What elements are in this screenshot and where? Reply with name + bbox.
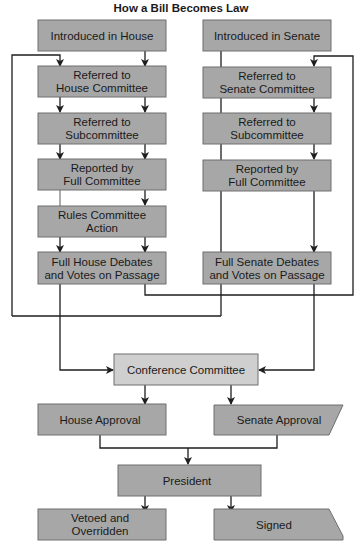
svg-text:Referred to: Referred to <box>238 70 296 82</box>
svg-text:Senate Approval: Senate Approval <box>237 414 321 426</box>
box-senate-reported[interactable]: Reported by Full Committee <box>203 160 331 191</box>
svg-text:Subcommittee: Subcommittee <box>230 129 304 141</box>
box-introduced-in-senate[interactable]: Introduced in Senate <box>203 20 331 51</box>
flowchart: Introduced in House Referred to House Co… <box>0 0 362 548</box>
svg-text:Action: Action <box>86 222 118 234</box>
house-column: Introduced in House Referred to House Co… <box>38 20 166 284</box>
box-house-committee[interactable]: Referred to House Committee <box>38 66 166 97</box>
senate-column: Introduced in Senate Referred to Senate … <box>203 20 331 284</box>
svg-text:Subcommittee: Subcommittee <box>65 129 139 141</box>
svg-text:Reported by: Reported by <box>71 162 134 174</box>
box-vetoed-overridden[interactable]: Vetoed and Overridden <box>38 509 166 540</box>
svg-text:House Approval: House Approval <box>59 414 140 426</box>
svg-text:Conference Committee: Conference Committee <box>127 364 245 376</box>
svg-text:Referred to: Referred to <box>73 69 131 81</box>
box-senate-approval[interactable]: Senate Approval <box>214 405 343 435</box>
box-house-approval[interactable]: House Approval <box>38 404 166 435</box>
svg-text:Full House Debates: Full House Debates <box>52 256 153 268</box>
svg-text:Full Committee: Full Committee <box>228 176 305 188</box>
svg-text:Signed: Signed <box>256 519 292 531</box>
svg-text:Vetoed and: Vetoed and <box>71 512 129 524</box>
svg-text:and Votes on Passage: and Votes on Passage <box>209 269 324 281</box>
svg-text:Full Committee: Full Committee <box>63 175 140 187</box>
arrow-house-to-conference <box>60 284 113 370</box>
svg-text:Senate Committee: Senate Committee <box>219 83 314 95</box>
svg-text:Full Senate Debates: Full Senate Debates <box>215 256 319 268</box>
box-senate-subcommittee[interactable]: Referred to Subcommittee <box>203 113 331 144</box>
box-conference-committee[interactable]: Conference Committee <box>114 354 258 385</box>
box-senate-floor[interactable]: Full Senate Debates and Votes on Passage <box>203 252 331 284</box>
svg-text:Introduced in House: Introduced in House <box>51 30 154 42</box>
line-approvals-join <box>100 435 277 448</box>
box-president[interactable]: President <box>118 465 261 496</box>
box-rules-committee[interactable]: Rules Committee Action <box>38 206 166 237</box>
svg-text:Rules Committee: Rules Committee <box>58 209 146 221</box>
svg-text:Referred to: Referred to <box>238 116 296 128</box>
box-house-subcommittee[interactable]: Referred to Subcommittee <box>38 113 166 144</box>
svg-text:and Votes on Passage: and Votes on Passage <box>44 269 159 281</box>
svg-text:Introduced in Senate: Introduced in Senate <box>214 30 320 42</box>
svg-text:President: President <box>163 475 212 487</box>
svg-text:House Committee: House Committee <box>56 82 148 94</box>
box-house-reported[interactable]: Reported by Full Committee <box>38 159 166 190</box>
svg-text:Referred to: Referred to <box>73 116 131 128</box>
svg-text:Overridden: Overridden <box>72 525 129 537</box>
box-senate-committee[interactable]: Referred to Senate Committee <box>203 67 331 98</box>
arrow-senate-to-conference <box>259 284 314 370</box>
box-signed[interactable]: Signed <box>214 509 343 540</box>
box-house-floor[interactable]: Full House Debates and Votes on Passage <box>38 252 166 284</box>
box-introduced-in-house[interactable]: Introduced in House <box>38 20 166 51</box>
svg-text:Reported by: Reported by <box>236 163 299 175</box>
